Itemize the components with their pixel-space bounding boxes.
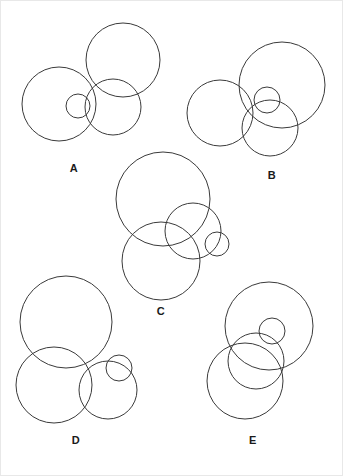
panel-label-c: C: [157, 305, 165, 317]
panel-e-large-bottom-left-circle: [207, 343, 283, 419]
panel-c: [116, 152, 229, 300]
panel-c-large-bottom-circle: [122, 222, 200, 300]
panel-b-medium-circle: [242, 100, 298, 156]
circles-vector-layer: [0, 0, 343, 476]
panel-e-large-top-right-circle: [225, 282, 313, 370]
panel-a-small-circle: [66, 94, 90, 118]
panel-c-medium-circle: [165, 203, 221, 259]
panel-label-d: D: [72, 434, 80, 446]
panel-label-e: E: [249, 434, 257, 446]
panel-e-small-circle: [259, 318, 285, 344]
panel-e-medium-circle: [228, 333, 284, 389]
panel-label-a: A: [70, 162, 78, 174]
panel-d-small-circle: [106, 355, 132, 381]
panel-d-medium-circle: [79, 361, 137, 419]
panel-c-large-top-circle: [116, 152, 210, 246]
panel-label-b: B: [268, 169, 276, 181]
panel-a: [22, 23, 160, 141]
panel-b: [187, 42, 325, 156]
panel-e: [207, 282, 313, 419]
panel-b-large-top-right-circle: [239, 42, 325, 128]
panel-a-large-top-circle: [86, 23, 160, 97]
panel-c-small-circle: [205, 232, 229, 256]
panel-a-medium-circle: [85, 79, 141, 135]
circles-figure-canvas: ABCDE: [0, 0, 343, 476]
panel-d-large-top-circle: [20, 276, 112, 368]
panel-d-large-bottom-left-circle: [16, 347, 92, 423]
panel-d: [16, 276, 137, 423]
